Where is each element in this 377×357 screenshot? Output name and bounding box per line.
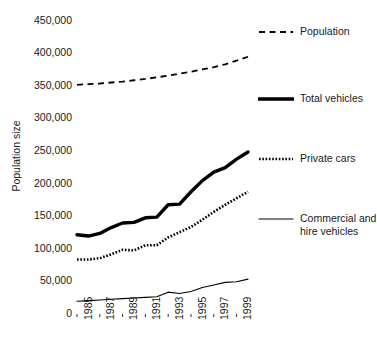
- x-tick-label: 1999: [241, 297, 253, 320]
- x-tick-label: 1987: [104, 297, 116, 320]
- legend-swatch-dashed-icon: [258, 25, 294, 39]
- legend-label: Commercial and hire vehicles: [300, 212, 377, 237]
- x-tick-label: 1991: [150, 297, 162, 320]
- legend-swatch-dotted-icon: [258, 152, 294, 166]
- x-tick-label: 1989: [127, 297, 139, 320]
- x-tick-label: 1995: [196, 297, 208, 320]
- legend-swatch-solid-thin-icon: [258, 212, 294, 226]
- legend-label: Private cars: [300, 152, 377, 165]
- chart-legend: PopulationTotal vehiclesPrivate carsComm…: [258, 0, 377, 357]
- legend-label: Population: [300, 25, 377, 38]
- chart-figure: Population size 050,000100,000150,000200…: [0, 0, 377, 357]
- x-tick-label: 1993: [173, 297, 185, 320]
- legend-label: Total vehicles: [300, 92, 377, 105]
- legend-swatch-solid-thick-icon: [258, 92, 294, 106]
- x-tick-label: 1997: [218, 297, 230, 320]
- x-tick-label: 1985: [82, 297, 94, 320]
